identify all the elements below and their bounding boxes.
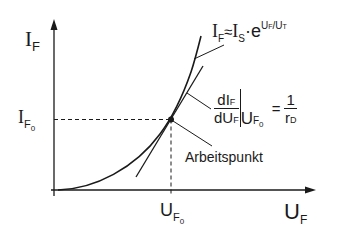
eq-exponent: UF/UT (261, 20, 287, 31)
eq-exp-sub2: T (283, 23, 287, 30)
y-tick-sub: F (24, 118, 31, 130)
derivative-expression: dIF dUF UF0 = 1 rD (214, 89, 297, 127)
y-tick-label: IF0 (18, 108, 35, 126)
y-axis-symbol: I (25, 27, 32, 51)
x-axis-subscript: F (300, 213, 307, 227)
d-eval-subsub: 0 (259, 120, 263, 129)
evaluation-point: UF0 (241, 110, 264, 127)
derivative-fraction: dIF dUF (214, 92, 239, 125)
x-tick-subsub: 0 (180, 217, 184, 226)
y-tick-subsub: 0 (31, 124, 35, 133)
eq-exp-slash: /U (273, 20, 283, 31)
eq-base: e (251, 21, 261, 41)
d-equals: = (272, 101, 281, 116)
eq-rhs-sub: S (238, 33, 245, 44)
derivative-numerator: dIF (214, 92, 239, 109)
operating-point-leader (173, 121, 212, 146)
d-den: dU (214, 109, 233, 126)
eq-lhs-sub: F (218, 33, 224, 44)
x-tick-subscript: F0 (173, 211, 184, 223)
x-tick-sub: F (173, 211, 180, 223)
x-axis-symbol: U (284, 199, 300, 224)
d-eval: U (241, 109, 253, 128)
y-tick-subscript: F0 (24, 118, 35, 130)
x-tick-symbol: U (160, 200, 173, 220)
resistance-fraction: 1 rD (284, 92, 296, 125)
operating-point-label: Arbeitspunkt (185, 150, 263, 164)
r-den-sub: D (290, 115, 297, 125)
diode-curve (58, 36, 201, 190)
y-axis-arrow-icon (51, 19, 58, 30)
x-axis-label: UF (284, 201, 307, 223)
d-den-sub: F (233, 115, 239, 125)
r-den: rD (284, 109, 296, 125)
d-num: dI (217, 91, 230, 108)
derivative-denominator: dUF (214, 109, 239, 125)
derivative-leader (187, 93, 211, 109)
r-num: 1 (284, 92, 296, 109)
d-num-sub: F (230, 97, 236, 107)
x-tick-label: UF0 (160, 201, 184, 219)
x-axis-arrow-icon (305, 187, 316, 194)
shockley-equation: IF≈IS·eUF/UT (212, 22, 287, 40)
y-axis-subscript: F (32, 39, 40, 54)
y-axis-label: IF (25, 28, 40, 50)
